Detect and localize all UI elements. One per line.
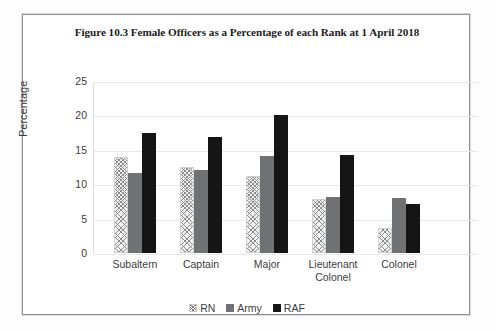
- legend-swatch-icon: [226, 304, 234, 312]
- bar-group: [378, 81, 420, 253]
- figure-page: Figure 10.3 Female Officers as a Percent…: [0, 0, 497, 330]
- x-tick-label: Lieutenant Colonel: [295, 258, 371, 284]
- bar: [194, 170, 208, 253]
- legend-item: RAF: [273, 302, 305, 314]
- y-axis-line: [93, 82, 94, 255]
- legend-item: Army: [226, 302, 262, 314]
- y-tick-label: 0: [57, 247, 87, 259]
- legend-item: RN: [189, 302, 215, 314]
- chart-frame: Figure 10.3 Female Officers as a Percent…: [22, 14, 470, 315]
- bar: [142, 133, 156, 253]
- bar: [208, 137, 222, 253]
- x-tick-label: Captain: [163, 258, 239, 271]
- bar: [260, 156, 274, 253]
- gridline: [93, 254, 478, 255]
- chart-title: Figure 10.3 Female Officers as a Percent…: [57, 25, 437, 40]
- x-tick-label: Subaltern: [97, 258, 173, 271]
- legend-swatch-icon: [189, 304, 197, 312]
- plot-area: [93, 82, 478, 254]
- bar-group: [246, 81, 288, 253]
- bar: [114, 157, 128, 253]
- chart-legend: RNArmyRAF: [23, 302, 471, 314]
- legend-label: RN: [200, 302, 215, 314]
- x-tick-label: Major: [229, 258, 305, 271]
- bar: [246, 176, 260, 253]
- bar: [378, 228, 392, 253]
- legend-label: Army: [237, 302, 262, 314]
- y-tick-label: 5: [57, 213, 87, 225]
- bar-group: [312, 81, 354, 253]
- y-axis-ticks: 0510152025: [57, 82, 87, 254]
- y-tick-label: 15: [57, 144, 87, 156]
- legend-swatch-icon: [273, 304, 281, 312]
- y-tick-label: 10: [57, 178, 87, 190]
- x-tick-label: Colonel: [361, 258, 437, 271]
- x-axis-labels: SubalternCaptainMajorLieutenant ColonelC…: [93, 258, 478, 292]
- y-tick-label: 20: [57, 109, 87, 121]
- bar: [326, 197, 340, 253]
- bar: [274, 115, 288, 253]
- y-axis-title: Percentage: [17, 81, 29, 137]
- bar: [392, 198, 406, 253]
- y-tick-label: 25: [57, 75, 87, 87]
- bar: [128, 173, 142, 253]
- legend-label: RAF: [284, 302, 305, 314]
- bar-group: [114, 81, 156, 253]
- bar: [312, 199, 326, 253]
- bar: [406, 204, 420, 253]
- bar: [340, 155, 354, 253]
- bar-group: [180, 81, 222, 253]
- bar: [180, 167, 194, 253]
